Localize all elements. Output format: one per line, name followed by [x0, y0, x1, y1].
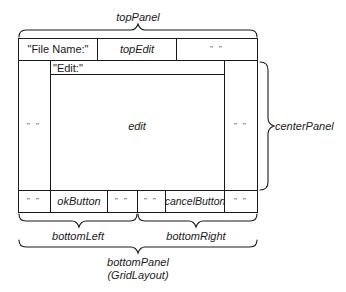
edit-area: edit: [128, 121, 146, 132]
top-panel-brace: [19, 24, 257, 37]
top-filler: " ": [210, 45, 224, 53]
bottom-right-brace: [138, 214, 257, 227]
top-panel-label: topPanel: [116, 12, 159, 23]
center-panel-brace: [260, 62, 274, 190]
bottom-right-label: bottomRight: [166, 231, 225, 242]
bottom-left-brace: [19, 214, 137, 227]
bottom-left-filler-2: " ": [115, 197, 129, 205]
center-panel-label: centerPanel: [275, 121, 334, 132]
center-right-filler: " ": [234, 122, 248, 130]
top-edit: topEdit: [120, 44, 154, 55]
center-left-filler: " ": [27, 122, 41, 130]
ok-button: okButton: [57, 196, 100, 207]
bottom-right-filler-1: " ": [144, 197, 158, 205]
bottom-panel-sublabel: (GridLayout): [107, 270, 168, 281]
bottom-panel-label: bottomPanel: [107, 257, 169, 268]
bottom-left-label: bottomLeft: [52, 231, 104, 242]
bottom-right-filler-2: " ": [234, 197, 248, 205]
edit-label: "Edit:": [53, 63, 83, 74]
bottom-left-filler-1: " ": [27, 197, 41, 205]
cancel-button: cancelButton: [165, 196, 226, 207]
file-name-label: "File Name:": [28, 44, 89, 55]
